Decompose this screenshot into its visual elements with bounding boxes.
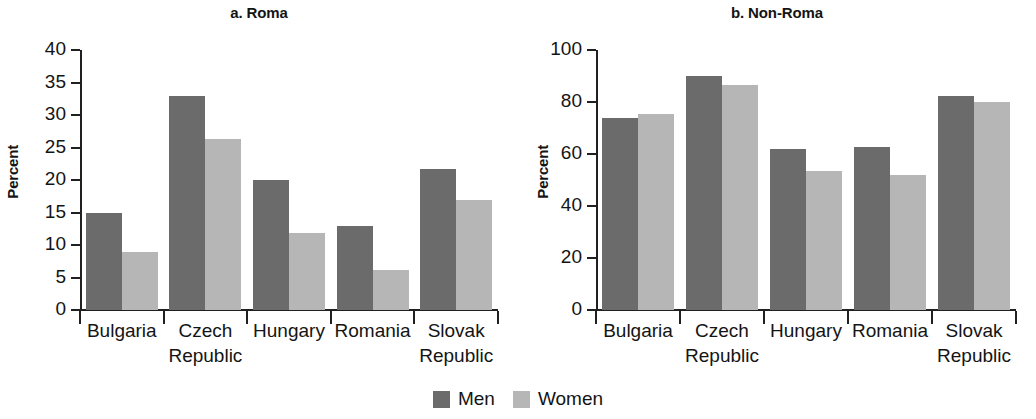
bar — [722, 85, 758, 310]
y-tick: 20 — [587, 257, 596, 259]
y-tick-label: 0 — [571, 298, 582, 320]
legend-label: Women — [538, 388, 603, 410]
x-axis-label: Bulgaria — [80, 318, 164, 368]
bar — [420, 169, 456, 310]
bar-group — [414, 50, 498, 310]
bar-group — [932, 50, 1016, 310]
bar — [86, 213, 122, 311]
y-tick-label: 15 — [45, 201, 66, 223]
x-axis-label: Czech Republic — [164, 318, 248, 368]
y-tick-label: 20 — [45, 168, 66, 190]
x-axis-label: Hungary — [764, 318, 848, 368]
x-axis-labels-roma: BulgariaCzech RepublicHungaryRomaniaSlov… — [80, 318, 498, 368]
x-axis-label: Czech Republic — [680, 318, 764, 368]
bar-group — [164, 50, 248, 310]
bar — [602, 118, 638, 310]
bar — [806, 171, 842, 310]
y-tick: 15 — [71, 212, 80, 214]
y-tick-label: 30 — [45, 103, 66, 125]
panel-title-roma: a. Roma — [0, 4, 518, 21]
bar — [638, 114, 674, 310]
bar — [169, 96, 205, 311]
bar-groups-roma — [80, 50, 498, 310]
y-tick: 25 — [71, 147, 80, 149]
y-tick-label: 25 — [45, 136, 66, 158]
bar-group — [247, 50, 331, 310]
plot-area-non-roma: 020406080100 — [596, 50, 1016, 310]
bar — [770, 149, 806, 310]
x-axis-label: Romania — [331, 318, 415, 368]
y-tick-label: 80 — [561, 90, 582, 112]
figure-two-panel-bar-charts: a. Roma Percent 0510152025303540 Bulgari… — [0, 0, 1036, 419]
y-tick: 20 — [71, 179, 80, 181]
y-tick: 10 — [71, 244, 80, 246]
bar — [974, 102, 1010, 310]
legend-item: Men — [433, 388, 495, 410]
x-axis-label: Bulgaria — [596, 318, 680, 368]
y-tick: 40 — [587, 205, 596, 207]
y-tick-label: 20 — [561, 246, 582, 268]
bar — [373, 270, 409, 310]
plot-area-roma: 0510152025303540 — [80, 50, 498, 310]
bar — [122, 252, 158, 311]
y-tick: 40 — [71, 49, 80, 51]
y-tick-label: 60 — [561, 142, 582, 164]
bar-group — [596, 50, 680, 310]
legend-swatch-icon — [513, 391, 530, 408]
y-axis-label-roma: Percent — [4, 145, 21, 199]
bar-group — [764, 50, 848, 310]
bar-group — [331, 50, 415, 310]
x-axis-label: Slovak Republic — [932, 318, 1016, 368]
y-tick: 100 — [587, 49, 596, 51]
x-axis-label: Romania — [848, 318, 932, 368]
legend-item: Women — [513, 388, 603, 410]
y-tick-label: 40 — [561, 194, 582, 216]
bar — [205, 139, 241, 310]
x-axis-labels-non-roma: BulgariaCzech RepublicHungaryRomaniaSlov… — [596, 318, 1016, 368]
y-tick: 35 — [71, 82, 80, 84]
bar — [686, 76, 722, 310]
bar-group — [848, 50, 932, 310]
bar — [337, 226, 373, 311]
y-tick-label: 35 — [45, 71, 66, 93]
y-tick-label: 10 — [45, 233, 66, 255]
panel-title-non-roma: b. Non-Roma — [518, 4, 1036, 21]
y-tick-label: 100 — [550, 38, 582, 60]
y-tick: 60 — [587, 153, 596, 155]
bar-group — [80, 50, 164, 310]
bar — [253, 180, 289, 310]
panel-roma: a. Roma Percent 0510152025303540 Bulgari… — [0, 0, 518, 385]
bar-groups-non-roma — [596, 50, 1016, 310]
bar-group — [680, 50, 764, 310]
y-axis-label-non-roma: Percent — [534, 145, 551, 199]
x-axis-label: Hungary — [247, 318, 331, 368]
y-tick: 30 — [71, 114, 80, 116]
bar — [456, 200, 492, 311]
x-axis-label: Slovak Republic — [414, 318, 498, 368]
y-tick: 80 — [587, 101, 596, 103]
bar — [890, 175, 926, 310]
legend: MenWomen — [0, 388, 1036, 410]
bar — [854, 147, 890, 310]
legend-swatch-icon — [433, 391, 450, 408]
bar — [289, 233, 325, 310]
panel-non-roma: b. Non-Roma Percent 020406080100 Bulgari… — [518, 0, 1036, 385]
legend-label: Men — [458, 388, 495, 410]
y-tick-label: 40 — [45, 38, 66, 60]
y-tick: 5 — [71, 277, 80, 279]
y-tick-label: 5 — [55, 266, 66, 288]
bar — [938, 96, 974, 311]
y-tick-label: 0 — [55, 298, 66, 320]
